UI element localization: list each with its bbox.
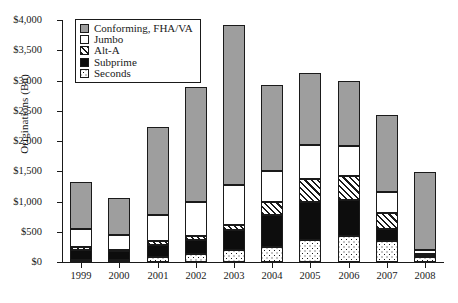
bar-segment-jumbo[interactable]: [70, 229, 92, 247]
y-axis-tick-label: $1,000: [0, 197, 42, 207]
bar-segment-conforming-fha-va[interactable]: [223, 25, 245, 185]
bar-segment-conforming-fha-va[interactable]: [108, 198, 130, 235]
y-axis-tick: [57, 232, 62, 233]
legend-swatch-alta: [80, 46, 89, 55]
x-axis-tick: [310, 263, 311, 268]
bar-segment-jumbo[interactable]: [147, 215, 169, 241]
y-axis-tick-label: $3,500: [0, 45, 42, 55]
x-axis-tick: [425, 263, 426, 268]
bar-segment-alt-a[interactable]: [70, 247, 92, 250]
x-axis-tick: [81, 263, 82, 268]
bar-segment-subprime[interactable]: [147, 245, 169, 256]
bar-segment-conforming-fha-va[interactable]: [185, 87, 207, 201]
bar-segment-conforming-fha-va[interactable]: [147, 127, 169, 215]
bar-segment-jumbo[interactable]: [108, 235, 130, 250]
bar-segment-seconds[interactable]: [338, 236, 360, 262]
y-axis-tick-label: $2,000: [0, 136, 42, 146]
bar-segment-alt-a[interactable]: [338, 176, 360, 200]
y-axis-tick: [57, 81, 62, 82]
legend-label: Seconds: [94, 68, 131, 79]
y-axis-tick: [57, 111, 62, 112]
y-axis-tick-label: $1,500: [0, 166, 42, 176]
y-axis-tick: [57, 20, 62, 21]
y-axis-line: [62, 20, 63, 263]
x-axis-tick: [158, 263, 159, 268]
bar-segment-alt-a[interactable]: [376, 213, 398, 230]
bar-2008[interactable]: [414, 20, 436, 262]
legend-swatch-conforming: [80, 24, 89, 33]
legend-swatch-subprime: [80, 58, 89, 67]
bar-2005[interactable]: [299, 20, 321, 262]
bar-segment-seconds[interactable]: [414, 257, 436, 262]
bar-segment-subprime[interactable]: [261, 215, 283, 248]
bar-2006[interactable]: [338, 20, 360, 262]
legend-label: Subprime: [94, 57, 137, 68]
y-axis-tick-label: $2,500: [0, 106, 42, 116]
bar-segment-jumbo[interactable]: [338, 146, 360, 175]
y-axis-tick: [57, 141, 62, 142]
y-axis-tick-label: $500: [0, 227, 42, 237]
bar-segment-conforming-fha-va[interactable]: [376, 115, 398, 192]
legend-label: Alt-A: [94, 45, 120, 56]
chart-figure: Originations (Bn) $0$500$1,000$1,500$2,0…: [0, 0, 458, 303]
bar-2004[interactable]: [261, 20, 283, 262]
y-axis-tick-label: $3,000: [0, 76, 42, 86]
legend-swatch-seconds: [80, 69, 89, 78]
legend-swatch-jumbo: [80, 35, 89, 44]
bar-segment-subprime[interactable]: [299, 202, 321, 240]
bar-segment-subprime[interactable]: [185, 240, 207, 254]
bar-segment-conforming-fha-va[interactable]: [70, 182, 92, 229]
bar-segment-seconds[interactable]: [223, 250, 245, 262]
x-axis-tick: [196, 263, 197, 268]
x-axis-tick-label: 2008: [400, 270, 450, 281]
y-axis-tick: [57, 171, 62, 172]
x-axis-tick: [349, 263, 350, 268]
y-axis-tick: [57, 202, 62, 203]
bar-segment-jumbo[interactable]: [414, 250, 436, 254]
x-axis-tick: [234, 263, 235, 268]
bar-segment-seconds[interactable]: [261, 247, 283, 262]
y-axis-tick: [57, 262, 62, 263]
y-axis-tick: [57, 50, 62, 51]
bar-segment-jumbo[interactable]: [223, 185, 245, 225]
bar-segment-conforming-fha-va[interactable]: [261, 85, 283, 172]
x-axis-tick: [272, 263, 273, 268]
bar-segment-seconds[interactable]: [376, 241, 398, 262]
bar-segment-conforming-fha-va[interactable]: [338, 81, 360, 146]
bar-segment-alt-a[interactable]: [223, 225, 245, 230]
bar-segment-seconds[interactable]: [299, 240, 321, 262]
bar-segment-alt-a[interactable]: [147, 241, 169, 245]
bar-segment-subprime[interactable]: [338, 200, 360, 236]
bar-segment-seconds[interactable]: [108, 260, 130, 262]
bar-segment-jumbo[interactable]: [299, 145, 321, 179]
bar-segment-jumbo[interactable]: [185, 202, 207, 236]
bar-segment-subprime[interactable]: [223, 230, 245, 250]
x-axis-tick: [387, 263, 388, 268]
bar-segment-subprime[interactable]: [376, 229, 398, 241]
y-axis-tick-label: $4,000: [0, 15, 42, 25]
bar-segment-jumbo[interactable]: [376, 192, 398, 213]
y-axis-tick-label: $0: [0, 257, 42, 267]
legend-item-seconds[interactable]: Seconds: [80, 68, 193, 79]
bar-segment-conforming-fha-va[interactable]: [414, 172, 436, 250]
bar-segment-alt-a[interactable]: [414, 254, 436, 256]
bar-segment-subprime[interactable]: [70, 250, 92, 260]
bar-segment-alt-a[interactable]: [261, 202, 283, 214]
bar-2007[interactable]: [376, 20, 398, 262]
bar-2003[interactable]: [223, 20, 245, 262]
x-axis-tick: [119, 263, 120, 268]
bar-segment-jumbo[interactable]: [261, 171, 283, 202]
bar-segment-seconds[interactable]: [147, 257, 169, 262]
bar-segment-alt-a[interactable]: [299, 179, 321, 202]
legend-item-alta[interactable]: Alt-A: [80, 45, 193, 56]
bar-segment-subprime[interactable]: [108, 251, 130, 259]
bar-segment-seconds[interactable]: [70, 260, 92, 262]
bar-segment-conforming-fha-va[interactable]: [299, 73, 321, 144]
bar-segment-alt-a[interactable]: [185, 236, 207, 240]
bar-segment-seconds[interactable]: [185, 254, 207, 262]
chart-legend: Conforming, FHA/VAJumboAlt-ASubprimeSeco…: [75, 19, 201, 83]
